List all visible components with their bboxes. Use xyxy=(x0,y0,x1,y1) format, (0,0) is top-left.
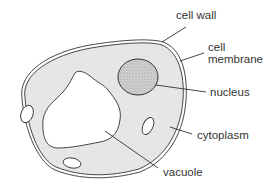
label-vacuole: vacuole xyxy=(163,166,203,178)
label-cell-wall: cell wall xyxy=(176,9,216,21)
nucleus xyxy=(118,59,158,95)
label-cell-membrane-line1: cell xyxy=(208,41,225,53)
leader-cell-wall xyxy=(162,27,186,42)
leader-cell-membrane xyxy=(180,53,204,61)
label-nucleus: nucleus xyxy=(210,86,250,98)
plant-cell-diagram: cell wall cell membrane nucleus cytoplas… xyxy=(0,0,268,184)
label-cytoplasm: cytoplasm xyxy=(197,129,249,141)
label-cell-membrane-line2: membrane xyxy=(208,53,263,65)
